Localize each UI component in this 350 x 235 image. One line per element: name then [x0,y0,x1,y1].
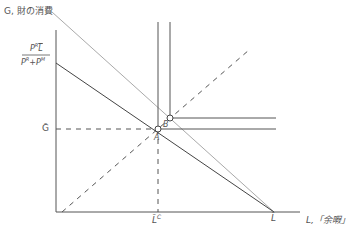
y-axis-label: G, 財の消費 [4,4,53,17]
point-a-marker [155,126,161,132]
budget-line-light [52,12,274,212]
g-bar-label: Ḡ [42,123,49,133]
l-bar-label: L̄ [271,213,276,223]
point-a-label: A [154,133,159,142]
x-axis-label: L,「余暇」 [306,213,350,226]
point-b-label: B [163,120,169,129]
indifference-curve-b [170,22,276,118]
budget-line-dark [56,63,274,212]
intercept-denominator: PR+PM [21,56,45,67]
lc-label: L̄C [152,213,161,225]
intercept-numerator: PRL [30,42,43,53]
